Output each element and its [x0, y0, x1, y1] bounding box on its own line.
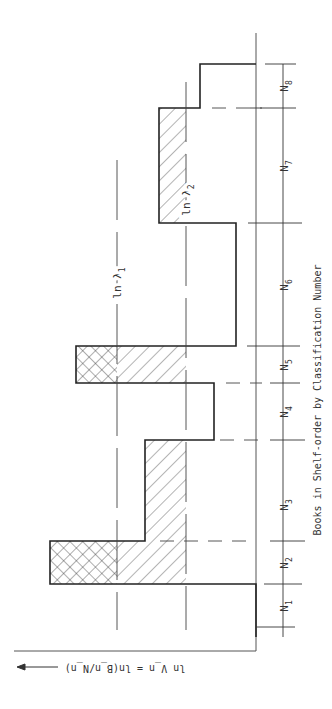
hatch-region-n3 [145, 440, 186, 541]
segment-label-n4: N4 [278, 406, 294, 418]
ln-lambda1-label: ln λ1 [111, 267, 127, 299]
segment-label-n1: N1 [278, 600, 294, 612]
crosshatch-region-n2 [50, 541, 117, 584]
segment-label-n5: N5 [278, 359, 294, 371]
segment-label-n6: N6 [278, 279, 294, 291]
segment-label-n2: N2 [278, 557, 294, 569]
hatch-region-n2 [117, 541, 186, 584]
y-axis-arrow-icon [17, 664, 58, 670]
y-axis-label: ln V_n = ln(B_n/N_n) [65, 662, 185, 674]
segment-label-n7: N7 [278, 160, 294, 172]
shelf-order-step-diagram: N1 N2 N3 N4 N5 N6 N7 N8 ln λ1 ln λ2 Book… [0, 0, 332, 709]
x-axis-label: Books in Shelf-order by Classification N… [312, 265, 323, 536]
segment-label-n3: N3 [278, 499, 294, 511]
reference-labels: ln λ1 ln λ2 [111, 184, 196, 299]
hatch-region-n5 [117, 346, 186, 383]
segment-label-n8: N8 [278, 80, 294, 92]
crosshatch-region-n5 [76, 346, 117, 383]
